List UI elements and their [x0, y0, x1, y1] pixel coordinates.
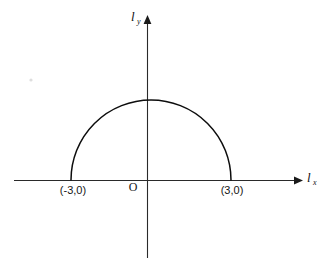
left-intercept-label: (-3,0)	[60, 184, 86, 196]
right-intercept-label: (3,0)	[221, 184, 244, 196]
semicircle-curve	[71, 100, 231, 180]
figure-canvas: l y l x O (-3,0) (3,0)	[0, 0, 328, 275]
scan-speck	[29, 78, 32, 81]
origin-label: O	[129, 180, 138, 194]
y-axis-label: l	[131, 9, 135, 24]
y-axis-arrowhead	[144, 15, 152, 24]
x-axis-label: l	[307, 170, 311, 185]
geometry-figure: l y l x O (-3,0) (3,0)	[0, 0, 328, 275]
y-axis-label-subscript: y	[136, 17, 141, 26]
x-axis-arrowhead	[294, 177, 303, 185]
x-axis-label-subscript: x	[312, 178, 317, 187]
